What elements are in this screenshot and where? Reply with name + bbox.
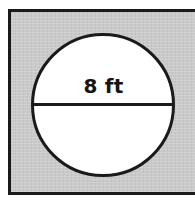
diameter-line	[32, 103, 174, 106]
diameter-dimension-label: 8 ft	[0, 73, 195, 99]
geometry-figure: 8 ft	[0, 0, 195, 201]
